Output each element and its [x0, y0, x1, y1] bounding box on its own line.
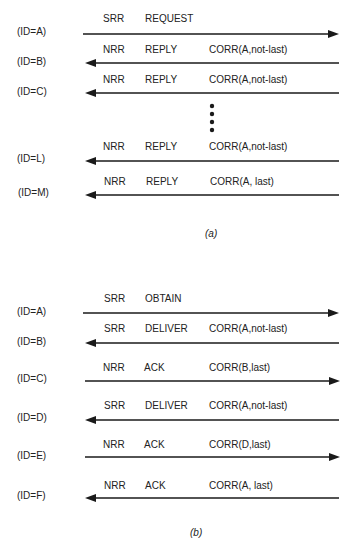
arrow-b-B	[85, 339, 339, 347]
correlation-label: CORR(A,not-last)	[209, 141, 287, 152]
arrow-a-L	[85, 157, 339, 165]
message-type: REQUEST	[145, 13, 193, 24]
message-type: REPLY	[146, 176, 178, 187]
arrow-a-M	[85, 191, 339, 199]
caption-b: (b)	[190, 527, 202, 538]
flag-label: NRR	[103, 141, 125, 152]
message-type: ACK	[145, 480, 166, 491]
flag-label: SRR	[104, 323, 125, 334]
message-type: ACK	[144, 439, 165, 450]
correlation-label: CORR(A,not-last)	[209, 323, 287, 334]
flag-label: NRR	[104, 480, 126, 491]
id-label: (ID=C)	[17, 373, 47, 384]
id-label: (ID=L)	[17, 153, 45, 164]
caption-a: (a)	[205, 228, 217, 239]
correlation-label: CORR(D,last)	[209, 439, 271, 450]
id-label: (ID=B)	[17, 336, 46, 347]
ellipsis-dots	[210, 104, 214, 132]
arrow-a-A	[83, 30, 339, 38]
id-label: (ID=B)	[17, 56, 46, 67]
message-type: DELIVER	[145, 323, 188, 334]
flag-label: NRR	[104, 176, 126, 187]
id-label: (ID=E)	[17, 450, 46, 461]
arrow-b-D	[85, 416, 339, 424]
flag-label: NRR	[103, 74, 125, 85]
flag-label: SRR	[104, 400, 125, 411]
id-label: (ID=M)	[18, 187, 49, 198]
id-label: (ID=A)	[17, 306, 46, 317]
id-label: (ID=A)	[17, 26, 46, 37]
correlation-label: CORR(A,not-last)	[209, 74, 287, 85]
id-label: (ID=F)	[17, 490, 46, 501]
correlation-label: CORR(B,last)	[209, 362, 270, 373]
correlation-label: CORR(A,not-last)	[209, 400, 287, 411]
message-type: ACK	[144, 362, 165, 373]
arrow-b-A	[83, 309, 339, 317]
id-label: (ID=C)	[17, 86, 47, 97]
flag-label: NRR	[103, 439, 125, 450]
message-type: DELIVER	[145, 400, 188, 411]
flag-label: SRR	[104, 293, 125, 304]
flag-label: NRR	[103, 362, 125, 373]
arrow-b-C	[85, 377, 340, 385]
flag-label: NRR	[103, 44, 125, 55]
arrow-b-F	[85, 494, 339, 502]
id-label: (ID=D)	[17, 412, 47, 423]
message-type: OBTAIN	[145, 293, 181, 304]
message-type: REPLY	[145, 44, 177, 55]
correlation-label: CORR(A,not-last)	[209, 44, 287, 55]
correlation-label: CORR(A, last)	[209, 480, 273, 491]
message-type: REPLY	[145, 74, 177, 85]
correlation-label: CORR(A, last)	[210, 176, 274, 187]
arrow-a-B	[85, 59, 339, 67]
arrow-b-E	[85, 453, 340, 461]
message-type: REPLY	[145, 141, 177, 152]
arrow-a-C	[85, 89, 339, 97]
flag-label: SRR	[103, 13, 124, 24]
